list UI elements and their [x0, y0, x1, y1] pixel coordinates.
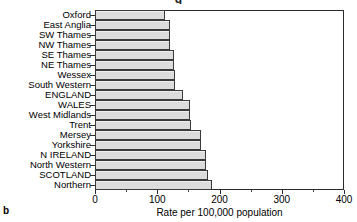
x-axis-minor-tick	[126, 190, 127, 192]
category-tick	[90, 65, 95, 66]
category-tick	[90, 175, 95, 176]
category-tick	[90, 35, 95, 36]
chart-title-fragment: g	[0, 0, 357, 4]
category-tick	[90, 95, 95, 96]
bar-row	[95, 60, 344, 69]
bar	[95, 180, 212, 189]
category-tick	[90, 55, 95, 56]
bar	[95, 20, 170, 29]
bar-row	[95, 170, 344, 179]
panel-letter: b	[3, 205, 9, 216]
bar-row	[95, 40, 344, 49]
bar	[95, 120, 191, 129]
category-tick	[90, 145, 95, 146]
category-tick	[90, 165, 95, 166]
bar-row	[95, 150, 344, 159]
bar-row	[95, 70, 344, 79]
x-axis-tick-label: 400	[336, 194, 353, 205]
x-axis-tick-label: 300	[273, 194, 290, 205]
category-axis-labels: OxfordEast AngliaSW ThamesNW ThamesSE Th…	[0, 10, 91, 190]
category-tick	[90, 75, 95, 76]
category-label: Northern	[0, 180, 91, 190]
bar-row	[95, 140, 344, 149]
category-tick	[90, 125, 95, 126]
category-tick	[90, 185, 95, 186]
x-axis-minor-tick	[251, 190, 252, 192]
bar-row	[95, 10, 344, 19]
x-axis-minor-tick	[188, 190, 189, 192]
bar	[95, 50, 174, 59]
x-axis-minor-tick	[313, 190, 314, 192]
bar-row	[95, 80, 344, 89]
bar-row	[95, 130, 344, 139]
bar	[95, 70, 175, 79]
bar-row	[95, 120, 344, 129]
bar-row	[95, 180, 344, 189]
bar	[95, 60, 174, 69]
bar	[95, 160, 206, 169]
bar-row	[95, 20, 344, 29]
bar-row	[95, 110, 344, 119]
bar	[95, 80, 175, 89]
category-tick	[90, 15, 95, 16]
bar-chart-figure: g OxfordEast AngliaSW ThamesNW ThamesSE …	[0, 0, 357, 222]
bar	[95, 40, 170, 49]
bar	[95, 150, 206, 159]
bar	[95, 130, 201, 139]
bar	[95, 90, 183, 99]
category-tick	[90, 45, 95, 46]
bar-row	[95, 90, 344, 99]
x-axis-tick-label: 200	[211, 194, 228, 205]
category-tick	[90, 85, 95, 86]
x-axis-tick-label: 0	[92, 194, 98, 205]
category-tick	[90, 105, 95, 106]
bar	[95, 170, 208, 179]
bar-series	[95, 10, 344, 190]
category-tick	[90, 115, 95, 116]
bar-row	[95, 30, 344, 39]
bar	[95, 110, 190, 119]
x-axis-title: Rate per 100,000 population	[95, 207, 344, 218]
bar-row	[95, 100, 344, 109]
bar	[95, 140, 201, 149]
x-axis-tick-label: 100	[149, 194, 166, 205]
category-tick	[90, 135, 95, 136]
bar-row	[95, 160, 344, 169]
bar	[95, 100, 190, 109]
category-tick	[90, 25, 95, 26]
bar	[95, 30, 170, 39]
category-tick	[90, 155, 95, 156]
bar	[95, 10, 165, 19]
bar-row	[95, 50, 344, 59]
